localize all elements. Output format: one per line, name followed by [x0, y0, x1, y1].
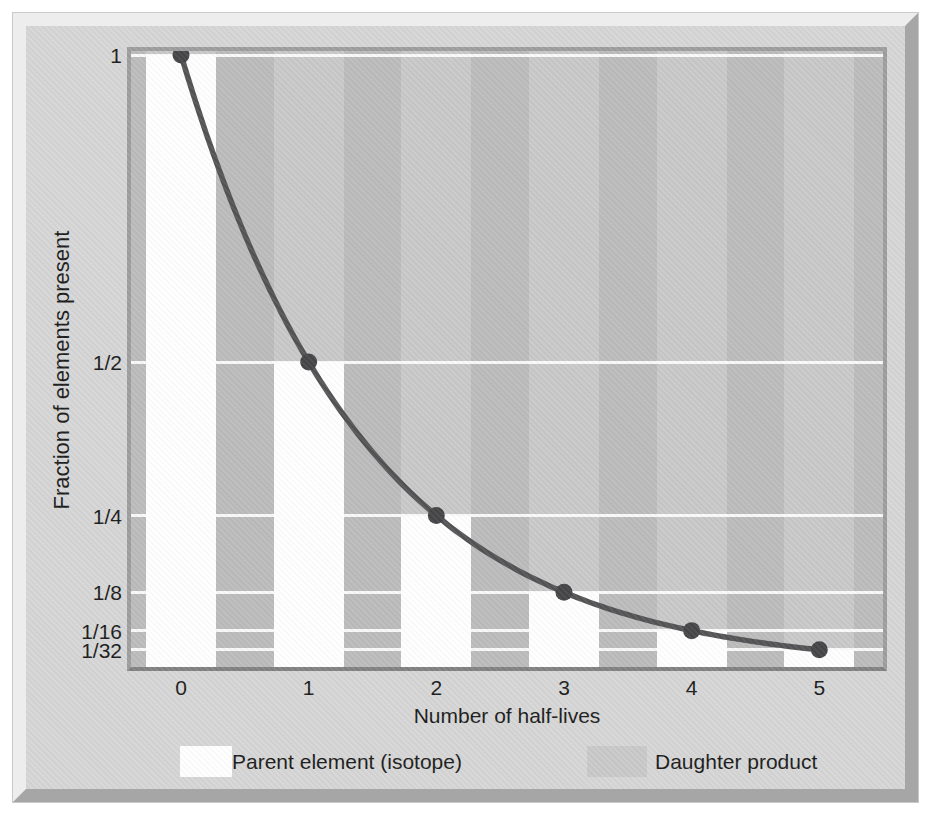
- x-tick-label: 2: [406, 675, 466, 701]
- x-tick-label: 4: [662, 675, 722, 701]
- x-tick-label: 5: [789, 675, 849, 701]
- y-tick-label: 1/8: [26, 581, 122, 605]
- y-tick-label: 1/4: [26, 505, 122, 529]
- data-point: [300, 354, 317, 371]
- x-tick-label: 1: [279, 675, 339, 701]
- figure-canvas: Fraction of elements present 11/21/41/81…: [0, 0, 930, 825]
- legend-label-daughter: Daughter product: [655, 746, 817, 777]
- data-point: [428, 507, 445, 524]
- data-point: [683, 622, 700, 639]
- figure-plate: Fraction of elements present 11/21/41/81…: [13, 13, 918, 802]
- legend-swatch-daughter: [587, 746, 647, 777]
- plot-area: [131, 51, 883, 667]
- x-tick-label: 3: [534, 675, 594, 701]
- y-tick-label: 1/2: [26, 351, 122, 375]
- y-tick-label: 1/32: [26, 639, 122, 663]
- legend-label-parent: Parent element (isotope): [232, 746, 462, 777]
- plot-frame: [127, 47, 887, 671]
- x-tick-label: 0: [151, 675, 211, 701]
- decay-curve: [181, 55, 819, 650]
- legend-swatch-parent: [180, 746, 232, 777]
- data-point: [173, 51, 190, 64]
- decay-curve-svg: [131, 51, 883, 667]
- data-point: [811, 641, 828, 658]
- data-point: [556, 584, 573, 601]
- y-tick-label: 1: [26, 44, 122, 68]
- x-axis-title: Number of half-lives: [357, 703, 657, 729]
